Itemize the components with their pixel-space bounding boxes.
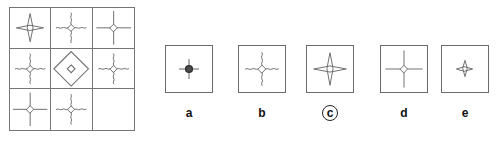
option-d-label: d — [380, 106, 428, 120]
figure-star-diamond-wavy-arms — [10, 49, 50, 89]
figure-star-filled-circle-straight-arms — [166, 46, 212, 92]
option-b-box[interactable] — [238, 45, 286, 93]
figure-star-diamond-straight-arms-long — [381, 46, 427, 92]
matrix-cell-r3c1[interactable] — [10, 89, 51, 130]
matrix-cell-r1c2[interactable] — [51, 8, 92, 49]
figure-star-diamond-straight-arms-long — [10, 89, 50, 130]
figure-large-diamond-with-inner-diamond — [51, 49, 91, 89]
option-d-box[interactable] — [380, 45, 428, 93]
matrix-cell-r2c1[interactable] — [10, 49, 51, 90]
matrix-cell-r1c3[interactable] — [93, 8, 134, 49]
figure-star-diamond-wavy-arms — [93, 49, 134, 89]
option-e[interactable]: e — [441, 45, 489, 120]
matrix-cell-r2c3[interactable] — [93, 49, 134, 90]
matrix-grid — [9, 7, 135, 131]
figure-star-diamond-straight-arms-long — [93, 8, 134, 48]
matrix-cell-r3c3-empty[interactable] — [93, 89, 134, 130]
figure-small-star-diamond — [442, 46, 488, 92]
figure-star-diamond-straight-arms — [10, 8, 50, 48]
option-b[interactable]: b — [238, 45, 286, 120]
figure-star-diamond-wavy-arms — [51, 8, 91, 48]
answer-options: a b — [160, 45, 496, 137]
figure-star-diamond-wavy-arms — [51, 89, 91, 130]
matrix-cell-r3c2[interactable] — [51, 89, 92, 130]
option-d[interactable]: d — [380, 45, 428, 120]
option-c-box[interactable] — [306, 45, 354, 93]
matrix-cell-r1c1[interactable] — [10, 8, 51, 49]
option-c-label-selected: c — [306, 106, 354, 120]
option-e-box[interactable] — [441, 45, 489, 93]
option-a-box[interactable] — [165, 45, 213, 93]
option-a-label: a — [165, 106, 213, 120]
option-a[interactable]: a — [165, 45, 213, 120]
figure-star-diamond-wavy-arms — [239, 46, 285, 92]
figure-star-diamond-straight-arms — [307, 46, 353, 92]
option-c[interactable]: c — [306, 45, 354, 120]
option-e-label: e — [441, 106, 489, 120]
option-b-label: b — [238, 106, 286, 120]
matrix-cell-r2c2[interactable] — [51, 49, 92, 90]
